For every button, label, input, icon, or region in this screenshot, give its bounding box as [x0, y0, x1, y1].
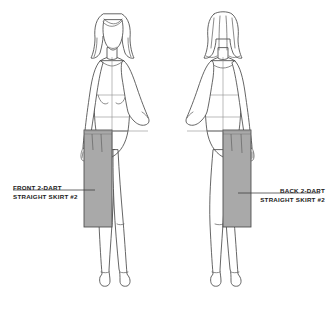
back-skirt	[223, 130, 251, 227]
croquis-illustration: .outline { fill: none; stroke: #4a4a4a; …	[0, 0, 333, 312]
front-skirt-label-line2: STRAIGHT SKIRT #2	[13, 193, 78, 202]
front-skirt-label-line1: FRONT 2-DART	[13, 184, 78, 193]
front-view-croquis	[81, 14, 149, 286]
back-skirt-label-line2: STRAIGHT SKIRT #2	[260, 196, 325, 205]
back-skirt-label: BACK 2-DART STRAIGHT SKIRT #2	[260, 187, 325, 204]
illustration-canvas: .outline { fill: none; stroke: #4a4a4a; …	[0, 0, 333, 312]
back-view-croquis	[186, 12, 254, 287]
front-skirt	[84, 130, 112, 227]
front-skirt-label: FRONT 2-DART STRAIGHT SKIRT #2	[13, 184, 78, 201]
back-skirt-label-line1: BACK 2-DART	[260, 187, 325, 196]
